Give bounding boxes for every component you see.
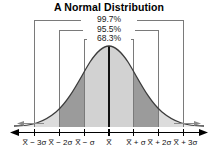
axis-arrow-left	[10, 129, 19, 136]
axis-arrow-right	[199, 129, 208, 136]
x-axis	[10, 129, 208, 136]
page-title: A Normal Distribution	[0, 1, 218, 13]
band-plus2-plus3	[159, 40, 184, 127]
band-minus2-minus1	[59, 40, 84, 127]
band-plus1-plus2	[134, 40, 159, 127]
band-minus3-minus2	[34, 40, 59, 127]
band-right-tail	[184, 40, 204, 127]
bracket-label-99-7: 99.7%	[0, 15, 218, 24]
axis-label-plus-3-sigma: X̅ + 3σ	[157, 138, 214, 148]
normal-distribution-figure: A Normal Distribution 99.7% 95.5% 68.3%	[0, 0, 218, 157]
band-left-tail	[14, 40, 34, 127]
bracket-label-68-3: 68.3%	[0, 34, 218, 43]
